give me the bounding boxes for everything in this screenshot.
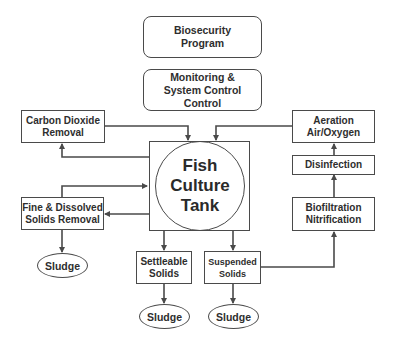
biosecurity-program-box: Biosecurity Program — [143, 16, 262, 58]
arrow-suspended-to-biofiltration — [261, 232, 334, 267]
biofiltration-box: Biofiltration Nitrification — [292, 197, 375, 231]
arrow-tank-to-co2 — [62, 144, 149, 157]
aquaculture-system-diagram: Biosecurity Program Monitoring & System … — [0, 0, 393, 343]
arrow-co2-to-tank — [105, 126, 188, 140]
sludge-left-ellipse: Sludge — [37, 253, 88, 278]
disinfection-box: Disinfection — [292, 155, 375, 175]
aeration-box: Aeration Air/Oxygen — [292, 110, 375, 143]
carbon-dioxide-removal-box: Carbon Dioxide Removal — [21, 110, 105, 143]
fine-dissolved-solids-removal-box: Fine & Dissolved Solids Removal — [21, 197, 104, 230]
arrow-fine-to-tank — [62, 186, 147, 197]
suspended-solids-box: Suspended Solids — [204, 251, 261, 284]
monitoring-control-box: Monitoring & System Control Control — [143, 69, 262, 111]
fish-culture-tank-box: Fish Culture Tank — [149, 141, 250, 231]
sludge-settleable-ellipse: Sludge — [139, 304, 190, 329]
settleable-solids-box: Settleable Solids — [136, 251, 192, 284]
arrow-aeration-to-tank — [216, 126, 292, 140]
fish-culture-tank: Fish Culture Tank — [155, 141, 245, 231]
sludge-suspended-ellipse: Sludge — [208, 304, 259, 329]
